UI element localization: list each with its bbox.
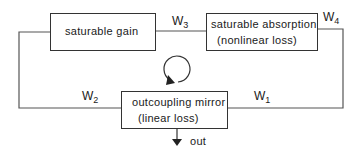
saturable-absorption-label: saturable absorption (211, 18, 317, 30)
linear-loss-label: (linear loss) (138, 112, 199, 124)
output-arrow-icon (172, 139, 182, 146)
saturable-gain-block: saturable gain (50, 13, 156, 51)
w4-label: W4 (323, 10, 339, 26)
w2-label: W2 (82, 89, 98, 105)
saturable-absorption-block: saturable absorption (nonlinear loss) (206, 13, 318, 51)
outcoupling-mirror-label: outcoupling mirror (132, 96, 225, 108)
nonlinear-loss-label: (nonlinear loss) (217, 34, 297, 46)
circulation-arrow-icon (164, 56, 190, 85)
saturable-gain-label: saturable gain (65, 25, 138, 37)
w1-label: W1 (254, 89, 270, 105)
outcoupling-mirror-block: outcoupling mirror (linear loss) (121, 91, 228, 129)
w3-label: W3 (172, 14, 188, 30)
output-label: out (190, 135, 206, 147)
